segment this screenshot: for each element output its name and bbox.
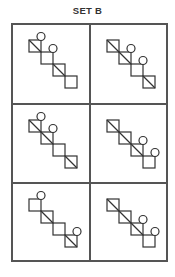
figure-cell-1[interactable] (12, 24, 90, 104)
figure-shape (91, 25, 169, 105)
figure-shape (13, 105, 91, 185)
figure-shape (91, 105, 169, 185)
figure-shape (13, 184, 91, 264)
figure-cell-5[interactable] (12, 183, 90, 261)
figure-cell-3[interactable] (12, 104, 90, 183)
figure-shape (13, 25, 91, 105)
figure-cell-4[interactable] (90, 104, 167, 183)
figure-grid (11, 23, 168, 262)
set-title: SET B (0, 5, 175, 16)
figure-cell-6[interactable] (90, 183, 167, 261)
figure-cell-2[interactable] (90, 24, 167, 104)
figure-shape (91, 184, 169, 264)
